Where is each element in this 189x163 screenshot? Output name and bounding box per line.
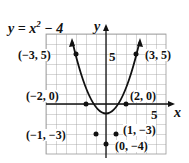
- y-axis-arrow-icon: [103, 24, 109, 31]
- y-tick-label: 5: [109, 50, 116, 63]
- point-0-neg4: [104, 142, 109, 147]
- point-label-2-0: (2, 0): [130, 90, 156, 102]
- x-axis-label: x: [174, 106, 181, 120]
- point-label-neg3-5: (−3, 5): [18, 49, 51, 61]
- y-axis-label: y: [94, 20, 100, 34]
- point-label-neg2-0: (−2, 0): [26, 90, 59, 102]
- point-label-1-neg3: (1, −3): [123, 124, 156, 136]
- point-label-3-5: (3, 5): [145, 49, 171, 61]
- point-label-0-neg4: (0, −4): [115, 140, 148, 152]
- x-tick-label: 5: [151, 108, 158, 121]
- chart-title: y = x2 − 4: [8, 19, 63, 37]
- point-label-neg1-neg3: (−1, −3): [26, 129, 66, 141]
- point-3-5: [134, 52, 139, 57]
- point-neg1-neg3: [94, 132, 99, 137]
- point-neg2-0: [84, 102, 89, 107]
- point-neg3-5: [74, 52, 79, 57]
- point-2-0: [124, 102, 129, 107]
- point-1-neg3: [114, 132, 119, 137]
